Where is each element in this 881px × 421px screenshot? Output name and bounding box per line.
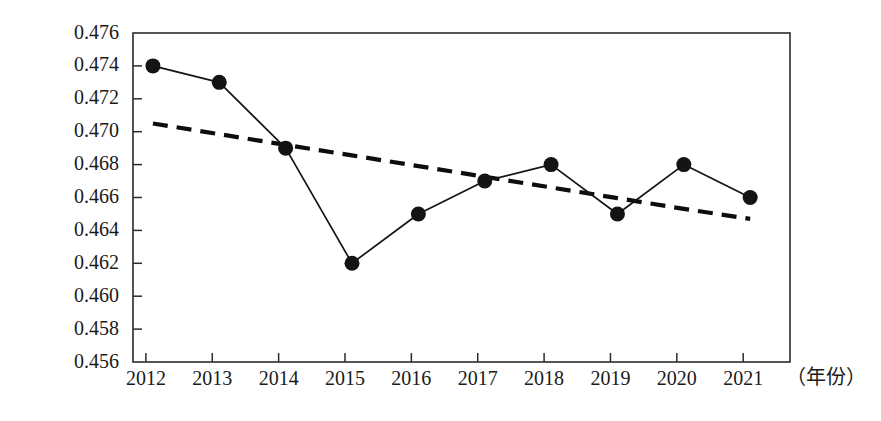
y-axis-tick-label: 0.476 — [74, 21, 119, 43]
x-axis-tick-label: 2020 — [657, 367, 697, 389]
data-point-marker — [345, 256, 360, 271]
trend-line — [153, 123, 750, 218]
y-axis-tick-label: 0.468 — [74, 152, 119, 174]
plot-frame — [133, 33, 790, 362]
y-axis-tick-label: 0.472 — [74, 86, 119, 108]
data-point-marker — [477, 174, 492, 189]
x-axis-tick-label: 2016 — [391, 367, 431, 389]
y-axis-tick-label: 0.474 — [74, 53, 119, 75]
x-axis-tick-label: 2019 — [590, 367, 630, 389]
x-axis-tick-label: 2012 — [126, 367, 166, 389]
x-axis-unit-label: （年份） — [786, 366, 866, 388]
x-axis-ticks — [146, 353, 743, 362]
data-point-marker — [544, 157, 559, 172]
y-axis-tick-label: 0.466 — [74, 185, 119, 207]
y-axis-tick-label: 0.456 — [74, 350, 119, 372]
y-axis-tick-label: 0.458 — [74, 317, 119, 339]
data-series-line — [153, 66, 750, 263]
line-chart: 0.4760.4740.4720.4700.4680.4660.4640.462… — [0, 0, 881, 421]
data-point-marker — [212, 75, 227, 90]
y-axis-ticks — [133, 66, 142, 329]
chart-figure: 0.4760.4740.4720.4700.4680.4660.4640.462… — [0, 0, 881, 421]
data-point-markers — [145, 58, 757, 270]
x-axis-tick-label: 2018 — [524, 367, 564, 389]
y-axis-tick-labels: 0.4760.4740.4720.4700.4680.4660.4640.462… — [74, 21, 119, 372]
data-point-marker — [676, 157, 691, 172]
x-axis-tick-label: 2021 — [723, 367, 763, 389]
x-axis-tick-label: 2015 — [325, 367, 365, 389]
y-axis-tick-label: 0.462 — [74, 251, 119, 273]
y-axis-tick-label: 0.470 — [74, 119, 119, 141]
data-point-marker — [743, 190, 758, 205]
y-axis-tick-label: 0.464 — [74, 218, 119, 240]
x-axis-tick-label: 2017 — [458, 367, 498, 389]
x-axis-tick-labels: 2012201320142015201620172018201920202021 — [126, 367, 763, 389]
x-axis-tick-label: 2014 — [259, 367, 299, 389]
data-point-marker — [278, 141, 293, 156]
y-axis-tick-label: 0.460 — [74, 284, 119, 306]
data-point-marker — [411, 206, 426, 221]
x-axis-tick-label: 2013 — [192, 367, 232, 389]
data-point-marker — [145, 58, 160, 73]
data-point-marker — [610, 206, 625, 221]
